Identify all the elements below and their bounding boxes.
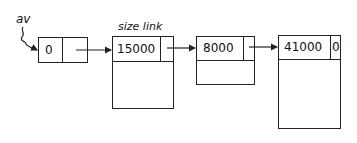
av-pointer-squiggle [21,27,37,50]
connector-arrows [0,0,357,143]
